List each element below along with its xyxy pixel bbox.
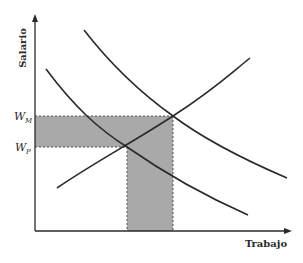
svg-text:M: M xyxy=(24,117,33,125)
svg-text:P: P xyxy=(25,148,31,156)
x-axis-arrow-icon xyxy=(284,228,292,234)
shaded-region xyxy=(35,116,173,231)
tick-label-wm: W M xyxy=(14,110,33,125)
y-axis-label: Salario xyxy=(17,28,28,68)
x-axis-label: Trabajo xyxy=(245,238,288,249)
y-axis-arrow-icon xyxy=(32,14,38,22)
tick-label-wp: W P xyxy=(15,141,31,156)
demand-curve-high xyxy=(84,30,287,178)
labor-market-chart: Salario Trabajo W M W P xyxy=(0,0,303,263)
